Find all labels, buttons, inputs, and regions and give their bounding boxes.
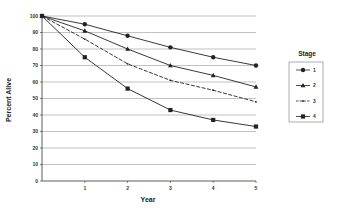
- legend: Stage 1234: [289, 50, 323, 122]
- data-series: [40, 13, 259, 128]
- y-tick-label: 40: [32, 112, 38, 118]
- legend-box: [289, 62, 323, 122]
- y-tick-label: 0: [35, 178, 38, 184]
- survival-line-chart: 0102030405060708090100 12345 Percent Ali…: [0, 0, 340, 215]
- square-marker-icon: [83, 55, 87, 59]
- x-tick-label: 3: [169, 185, 172, 191]
- legend-label: 1: [313, 67, 316, 73]
- circle-marker-icon: [301, 68, 305, 72]
- circle-marker-icon: [83, 22, 87, 26]
- x-tick-label: 1: [83, 185, 86, 191]
- series-stage-2: [40, 13, 259, 88]
- dot-marker-icon: [302, 100, 304, 102]
- y-axis-label: Percent Alive: [5, 78, 12, 122]
- square-marker-icon: [40, 14, 44, 18]
- y-tick-label: 80: [32, 46, 38, 52]
- circle-marker-icon: [211, 55, 215, 59]
- x-tick-label: 5: [255, 185, 258, 191]
- legend-label: 4: [313, 113, 316, 119]
- y-tick-label: 50: [32, 95, 38, 101]
- square-marker-icon: [254, 124, 258, 128]
- square-marker-icon: [126, 87, 130, 91]
- x-axis-ticks: 12345: [83, 181, 257, 191]
- x-tick-label: 4: [212, 185, 215, 191]
- gridlines: [42, 16, 256, 165]
- dot-marker-icon: [255, 101, 257, 103]
- y-tick-label: 10: [32, 161, 38, 167]
- y-tick-label: 30: [32, 128, 38, 134]
- legend-label: 2: [313, 82, 316, 88]
- x-tick-label: 2: [126, 185, 129, 191]
- series-stage-1: [40, 14, 258, 68]
- dot-marker-icon: [84, 38, 86, 40]
- series-stage-3: [41, 15, 257, 103]
- y-tick-label: 20: [32, 145, 38, 151]
- dot-marker-icon: [127, 63, 129, 65]
- circle-marker-icon: [168, 45, 172, 49]
- y-tick-label: 90: [32, 29, 38, 35]
- square-marker-icon: [211, 118, 215, 122]
- square-marker-icon: [301, 114, 305, 118]
- circle-marker-icon: [125, 34, 129, 38]
- legend-label: 3: [313, 98, 316, 104]
- y-tick-label: 60: [32, 79, 38, 85]
- circle-marker-icon: [254, 63, 258, 67]
- y-tick-label: 100: [30, 13, 39, 19]
- y-axis-ticks: 0102030405060708090100: [30, 13, 42, 184]
- series-stage-4: [40, 14, 258, 129]
- x-axis-label: Year: [141, 196, 156, 203]
- legend-title: Stage: [298, 50, 316, 58]
- dot-marker-icon: [212, 89, 214, 91]
- square-marker-icon: [168, 108, 172, 112]
- dot-marker-icon: [170, 79, 172, 81]
- y-tick-label: 70: [32, 62, 38, 68]
